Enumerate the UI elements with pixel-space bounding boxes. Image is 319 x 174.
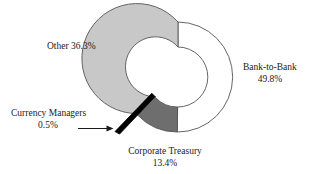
slice-label-corporate-treasury-name: Corporate Treasury	[128, 146, 202, 156]
slice-label-corporate-treasury: Corporate Treasury 13.4%	[113, 146, 217, 169]
slice-label-currency-managers: Currency Managers 0.5%	[11, 108, 85, 131]
slice-label-other: Other 36.3%	[47, 41, 96, 53]
slice-label-corporate-treasury-value: 13.4%	[113, 158, 217, 170]
slice-label-currency-managers-name: Currency Managers	[11, 108, 86, 118]
slice-label-bank-to-bank: Bank-to-Bank 49.8%	[243, 62, 297, 85]
slice-label-currency-managers-value: 0.5%	[11, 120, 85, 132]
slice-bank-to-bank[interactable]	[177, 22, 232, 132]
slice-other[interactable]	[82, 4, 178, 114]
donut-chart: Other 36.3% Bank-to-Bank 49.8% Corporate…	[0, 0, 319, 174]
slice-label-bank-to-bank-name: Bank-to-Bank	[243, 62, 297, 72]
slice-label-other-text: Other 36.3%	[47, 41, 96, 51]
slice-label-bank-to-bank-value: 49.8%	[243, 74, 297, 86]
